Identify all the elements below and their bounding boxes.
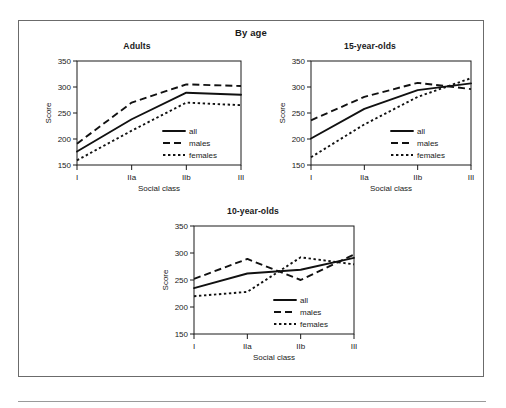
y-tick-label: 200 [292,135,306,144]
x-tick-label: IIa [243,342,252,351]
panel-adults-title: Adults [25,41,249,51]
panel-10-year-olds: 10-year-olds 150200250300350IIIaIIbIIISo… [144,206,362,371]
panel-15-year-olds: 15-year-olds 150200250300350IIIaIIbIIISo… [261,41,479,201]
y-tick-label: 300 [175,249,189,258]
panel-10-year-olds-plot: 150200250300350IIIaIIbIIISocial classSco… [144,218,362,370]
panel-10-year-olds-title: 10-year-olds [144,206,362,216]
y-tick-label: 200 [58,135,72,144]
y-tick-label: 350 [292,57,306,66]
legend-label-females: females [417,151,445,160]
y-tick-label: 300 [292,83,306,92]
y-tick-label: 250 [175,276,189,285]
legend-label-males: males [300,308,321,317]
panel-adults: Adults 150200250300350IIIaIIbIIISocial c… [25,41,249,201]
figure-title: By age [19,27,483,38]
legend-label-females: females [300,320,328,329]
figure-frame: By age Adults 150200250300350IIIaIIbIIIS… [18,20,484,377]
x-axis-title: Social class [370,184,412,193]
x-tick-label: III [468,173,475,182]
series-line-males [311,83,471,120]
x-tick-label: IIb [413,173,422,182]
x-tick-label: IIb [296,342,305,351]
x-axis-title: Social class [138,184,180,193]
y-tick-label: 250 [58,109,72,118]
x-tick-label: I [76,173,78,182]
x-tick-label: IIa [127,173,136,182]
y-tick-label: 150 [175,330,189,339]
y-tick-label: 350 [58,57,72,66]
y-tick-label: 250 [292,109,306,118]
series-line-males [194,255,354,280]
y-axis-title: Score [161,269,170,290]
y-tick-label: 350 [175,222,189,231]
panel-15-year-olds-plot: 150200250300350IIIaIIbIIISocial classSco… [261,53,479,201]
y-tick-label: 150 [58,161,72,170]
x-tick-label: IIa [360,173,369,182]
y-tick-label: 200 [175,303,189,312]
panel-15-year-olds-title: 15-year-olds [261,41,479,51]
legend-label-all: all [300,296,308,305]
legend-label-females: females [189,151,217,160]
y-tick-label: 150 [292,161,306,170]
y-tick-label: 300 [58,83,72,92]
x-tick-label: III [351,342,358,351]
panel-adults-plot: 150200250300350IIIaIIbIIISocial classSco… [25,53,249,201]
series-line-all [194,258,354,288]
x-tick-label: I [310,173,312,182]
legend-label-males: males [417,139,438,148]
x-tick-label: IIb [182,173,191,182]
legend-label-males: males [189,139,210,148]
y-axis-title: Score [278,102,287,123]
x-axis-title: Social class [253,353,295,362]
bottom-divider-rule [18,401,486,402]
x-tick-label: III [238,173,245,182]
y-axis-title: Score [44,102,53,123]
x-tick-label: I [193,342,195,351]
legend-label-all: all [189,127,197,136]
legend-label-all: all [417,127,425,136]
